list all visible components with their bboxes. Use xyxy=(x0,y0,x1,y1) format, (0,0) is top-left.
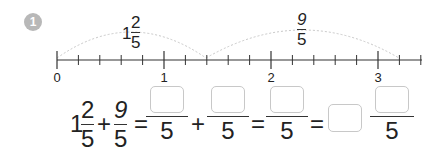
term2-denominator: 5 xyxy=(114,127,127,151)
arc2-fraction: 9 5 xyxy=(297,11,306,48)
answer-fraction: 5 xyxy=(370,86,414,143)
arc2-denominator: 5 xyxy=(297,31,306,48)
arc1-fraction: 2 5 xyxy=(131,14,140,51)
term1-denominator: 5 xyxy=(81,127,94,151)
tick-label-0: 0 xyxy=(53,70,60,85)
step2-denominator: 5 xyxy=(280,119,293,143)
step1-left-numerator-input[interactable] xyxy=(150,86,184,113)
step1-right-numerator-input[interactable] xyxy=(211,86,245,113)
tick-label-3: 3 xyxy=(374,70,381,85)
term1-fraction: 2 5 xyxy=(81,98,94,151)
arc1-denominator: 5 xyxy=(131,34,140,51)
answer-numerator-input[interactable] xyxy=(375,86,409,113)
arc2-numerator: 9 xyxy=(297,11,306,28)
equals-sign-3: = xyxy=(310,112,324,136)
term1-numerator: 2 xyxy=(81,98,94,122)
tick-label-2: 2 xyxy=(267,70,274,85)
step1-left-denominator: 5 xyxy=(160,119,173,143)
step1-right-denominator: 5 xyxy=(221,119,234,143)
plus-sign: + xyxy=(97,112,111,136)
step1-left-fraction: 5 xyxy=(146,86,188,143)
step2-numerator-input[interactable] xyxy=(270,86,304,113)
answer-denominator: 5 xyxy=(385,119,398,143)
arc1-numerator: 2 xyxy=(131,14,140,31)
equation: 1 2 5 + 9 5 = 5 + 5 = 5 = 5 xyxy=(0,86,442,156)
step2-fraction: 5 xyxy=(266,86,308,143)
term2-fraction: 9 5 xyxy=(114,98,127,151)
equals-sign-2: = xyxy=(251,112,265,136)
term2-numerator: 9 xyxy=(114,98,127,122)
answer-whole-input[interactable] xyxy=(328,104,362,132)
tick-label-1: 1 xyxy=(160,70,167,85)
plus-sign-2: + xyxy=(191,112,205,136)
step1-right-fraction: 5 xyxy=(207,86,249,143)
